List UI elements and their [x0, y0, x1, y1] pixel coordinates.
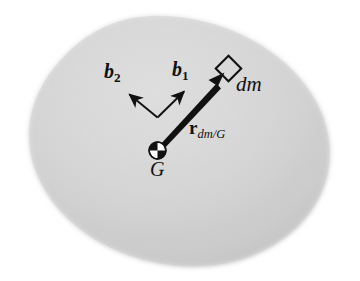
label-b1-subscript: 1: [182, 68, 189, 83]
figure-canvas: b2 b1 dm G rdm/G: [0, 0, 360, 281]
rigid-body-diagram: [0, 0, 360, 281]
label-dm: dm: [236, 74, 262, 95]
label-r-subscript: dm/G: [197, 127, 225, 141]
label-b2-subscript: 2: [114, 70, 121, 85]
label-b1-base: b: [172, 58, 182, 80]
label-b2: b2: [104, 61, 121, 84]
label-G: G: [150, 159, 164, 179]
body-blob-group: [29, 16, 330, 267]
label-r-dm-G: rdm/G: [189, 118, 225, 140]
label-b1: b1: [172, 59, 189, 82]
center-of-mass-marker: [149, 142, 166, 159]
label-b2-base: b: [104, 60, 114, 82]
